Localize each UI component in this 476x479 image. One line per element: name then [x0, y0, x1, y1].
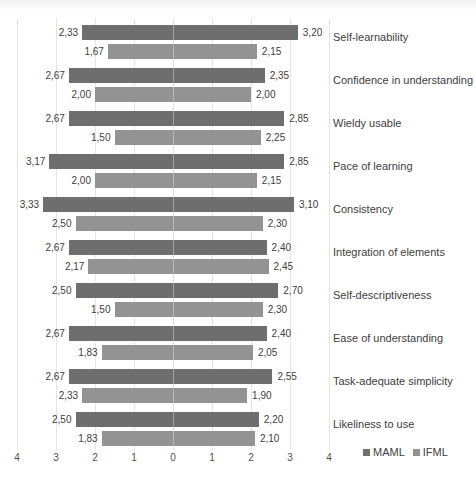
x-tick-label: 3: [280, 452, 300, 463]
x-tick-label: 1: [124, 452, 144, 463]
category-label: Ease of understanding: [333, 332, 443, 344]
bar-maml: [43, 197, 294, 212]
legend-label-maml: MAML: [373, 446, 405, 458]
bar-ifml: [108, 44, 257, 59]
value-label-right: 2,05: [258, 345, 277, 360]
value-label-right: 2,70: [283, 283, 302, 298]
value-label-right: 2,10: [260, 431, 279, 446]
value-label-left: 2,67: [25, 68, 65, 83]
bar-ifml: [82, 388, 247, 403]
x-tick-label: 0: [163, 452, 183, 463]
bar-maml: [69, 326, 267, 341]
value-label-left: 1,83: [58, 431, 98, 446]
value-label-right: 2,55: [277, 369, 296, 384]
legend-item-ifml: IFML: [413, 446, 448, 458]
category-label: Self-descriptiveness: [333, 289, 431, 301]
value-label-right: 2,25: [266, 130, 285, 145]
chart-legend: MAML IFML: [363, 446, 448, 458]
value-label-left: 2,67: [25, 240, 65, 255]
value-label-left: 2,50: [32, 412, 72, 427]
value-label-right: 1,90: [252, 388, 271, 403]
x-tick-label: 1: [202, 452, 222, 463]
bar-ifml: [95, 173, 257, 188]
value-label-left: 2,50: [32, 216, 72, 231]
value-label-right: 2,85: [289, 111, 308, 126]
value-label-left: 2,67: [25, 369, 65, 384]
x-tick-label: 4: [7, 452, 27, 463]
bar-maml: [49, 154, 284, 169]
gridline: [329, 18, 330, 450]
value-label-left: 1,83: [58, 345, 98, 360]
bar-ifml: [102, 431, 255, 446]
bar-ifml: [88, 259, 268, 274]
value-label-left: 2,50: [32, 283, 72, 298]
category-label: Wieldy usable: [333, 117, 401, 129]
value-label-left: 3,33: [0, 197, 39, 212]
value-label-right: 2,15: [262, 173, 281, 188]
zero-axis-line: [173, 18, 174, 450]
value-label-left: 2,33: [38, 25, 78, 40]
bar-ifml: [102, 345, 253, 360]
value-label-left: 1,67: [64, 44, 104, 59]
bar-maml: [69, 369, 273, 384]
value-label-right: 2,35: [270, 68, 289, 83]
value-label-right: 3,10: [299, 197, 318, 212]
bar-maml: [69, 240, 267, 255]
value-label-right: 2,30: [268, 302, 287, 317]
value-label-left: 2,33: [38, 388, 78, 403]
value-label-left: 2,17: [44, 259, 84, 274]
gridline: [290, 18, 291, 450]
category-label: Likeliness to use: [333, 418, 414, 430]
category-label: Confidence in understanding: [333, 74, 473, 86]
value-label-right: 2,85: [289, 154, 308, 169]
bar-maml: [76, 283, 279, 298]
legend-swatch-maml: [363, 449, 370, 456]
bar-ifml: [115, 130, 261, 145]
category-label: Consistency: [333, 203, 393, 215]
value-label-left: 2,67: [25, 111, 65, 126]
value-label-right: 2,15: [262, 44, 281, 59]
bar-maml: [76, 412, 259, 427]
legend-item-maml: MAML: [363, 446, 405, 458]
bar-ifml: [76, 216, 263, 231]
value-label-right: 2,40: [272, 326, 291, 341]
value-label-right: 2,30: [268, 216, 287, 231]
value-label-left: 3,17: [5, 154, 45, 169]
category-label: Task-adequate simplicity: [333, 375, 453, 387]
x-tick-label: 4: [319, 452, 339, 463]
gridline: [17, 18, 18, 450]
value-label-left: 2,00: [51, 173, 91, 188]
x-tick-label: 2: [85, 452, 105, 463]
value-label-right: 2,45: [274, 259, 293, 274]
x-tick-label: 2: [241, 452, 261, 463]
x-tick-label: 3: [46, 452, 66, 463]
category-label: Integration of elements: [333, 246, 445, 258]
legend-label-ifml: IFML: [423, 446, 448, 458]
category-label: Self-learnability: [333, 31, 408, 43]
bar-maml: [69, 111, 284, 126]
value-label-right: 2,20: [264, 412, 283, 427]
value-label-right: 2,00: [256, 87, 275, 102]
value-label-left: 1,50: [71, 130, 111, 145]
value-label-left: 2,67: [25, 326, 65, 341]
legend-swatch-ifml: [413, 449, 420, 456]
bar-ifml: [115, 302, 263, 317]
diverging-bar-chart: 4321012342,333,201,672,15Self-learnabili…: [0, 0, 476, 479]
value-label-right: 2,40: [272, 240, 291, 255]
value-label-left: 1,50: [71, 302, 111, 317]
value-label-left: 2,00: [51, 87, 91, 102]
value-label-right: 3,20: [303, 25, 322, 40]
bar-maml: [69, 68, 265, 83]
category-label: Pace of learning: [333, 160, 413, 172]
bar-maml: [82, 25, 298, 40]
